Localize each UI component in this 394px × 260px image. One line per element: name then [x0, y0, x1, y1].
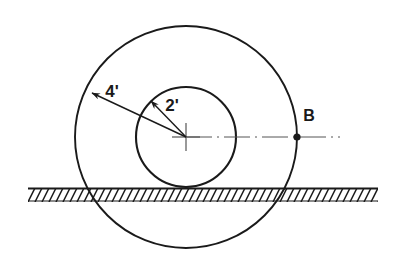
inner-radius-label: 2': [165, 96, 179, 115]
diagram-canvas: 4' 2' B: [0, 0, 394, 260]
ground-surface: [28, 188, 385, 202]
ground-hatching: [28, 188, 385, 202]
point-b-label: B: [303, 107, 315, 124]
outer-radius-label: 4': [105, 82, 119, 101]
point-b-marker: [293, 133, 300, 140]
wheel-diagram: 4' 2' B: [0, 0, 394, 260]
